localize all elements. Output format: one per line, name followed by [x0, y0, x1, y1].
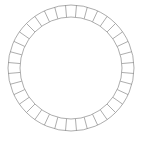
ring-segment-divider — [122, 72, 134, 73]
ring-inner-circle — [20, 17, 122, 119]
segmented-ring-diagram — [0, 0, 146, 148]
ring-segment-divider — [8, 72, 20, 73]
ring-segment-divider — [120, 81, 132, 84]
ring-segment-divider — [93, 11, 98, 22]
ring-segment-divider — [44, 11, 49, 22]
ring-segment-divider — [35, 110, 42, 120]
ring-segment-divider — [55, 7, 58, 19]
ring-segment-divider — [19, 97, 29, 104]
ring-segment-divider — [66, 119, 67, 131]
ring-segment-divider — [100, 110, 107, 120]
ring-segment-divider — [55, 117, 58, 129]
ring-segment-divider — [107, 104, 115, 112]
ring-segment-divider — [44, 114, 49, 125]
ring-segment-divider — [120, 52, 132, 55]
ring-segment-divider — [113, 32, 123, 39]
ring-segment-divider — [14, 41, 25, 46]
ring-segment-divider — [26, 104, 34, 112]
ring-segment-divider — [122, 63, 134, 64]
ring-segment-divider — [10, 81, 22, 84]
ring-segment-divider — [35, 16, 42, 26]
ring-segment-divider — [8, 63, 20, 64]
ring-segment-divider — [19, 32, 29, 39]
ring-segment-divider — [75, 5, 76, 17]
ring-segment-divider — [93, 114, 98, 125]
ring-segment-divider — [117, 41, 128, 46]
ring-segment-divider — [117, 90, 128, 95]
ring-segment-divider — [75, 119, 76, 131]
ring-segment-divider — [84, 117, 87, 129]
ring-segment-divider — [107, 23, 115, 31]
ring-segment-divider — [10, 52, 22, 55]
ring-group — [8, 5, 134, 131]
ring-segment-divider — [14, 90, 25, 95]
ring-segment-divider — [113, 97, 123, 104]
ring-segment-divider — [66, 5, 67, 17]
ring-segment-divider — [100, 16, 107, 26]
ring-segment-divider — [84, 7, 87, 19]
figure-canvas — [0, 0, 146, 148]
ring-segment-divider — [26, 23, 34, 31]
